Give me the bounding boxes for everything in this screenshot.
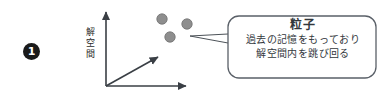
callout-title: 粒子 bbox=[232, 18, 374, 33]
callout-body-line-1: 過去の記憶をもっており bbox=[232, 33, 374, 47]
callout-body-line-2: 解空間内を跳び回る bbox=[232, 47, 374, 61]
callout-leader-line bbox=[190, 34, 228, 36]
particle-dot bbox=[165, 32, 175, 42]
figure-canvas: 1 解 空 間 粒子 過去の記憶をもっており 解空間内を跳び回る bbox=[0, 0, 384, 103]
callout-leader-line bbox=[190, 36, 228, 43]
callout-content: 粒子 過去の記憶をもっており 解空間内を跳び回る bbox=[232, 18, 374, 61]
particle-dot bbox=[182, 19, 192, 29]
particle-dot bbox=[157, 14, 167, 24]
axis-diagonal bbox=[106, 57, 158, 86]
